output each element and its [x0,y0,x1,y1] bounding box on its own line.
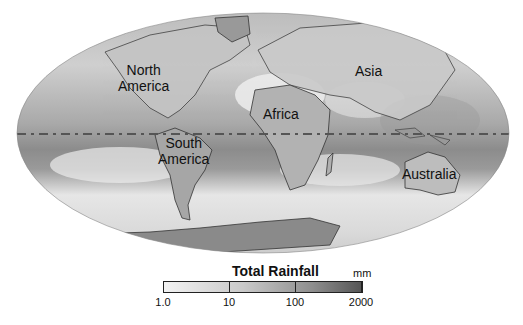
label-south-america: South America [158,135,209,167]
label-north-america: North America [118,62,169,94]
label-australia: Australia [402,166,456,182]
legend-unit: mm [353,267,371,279]
legend-tick [295,281,296,293]
legend-tick [361,281,362,293]
legend-color-bar [163,281,363,293]
legend-tick [229,281,230,293]
label-south-america-line2: America [158,151,209,167]
legend-tick-label: 1.0 [155,296,170,308]
label-south-america-line1: South [158,135,209,151]
legend-tick-label: 2000 [349,296,373,308]
legend-tick-label: 10 [223,296,235,308]
label-africa: Africa [263,106,299,122]
label-north-america-line1: North [118,62,169,78]
label-north-america-line2: America [118,78,169,94]
legend-tick-label: 100 [286,296,304,308]
label-asia: Asia [355,63,382,79]
legend-title: Total Rainfall [232,263,319,279]
legend-tick [163,281,164,293]
